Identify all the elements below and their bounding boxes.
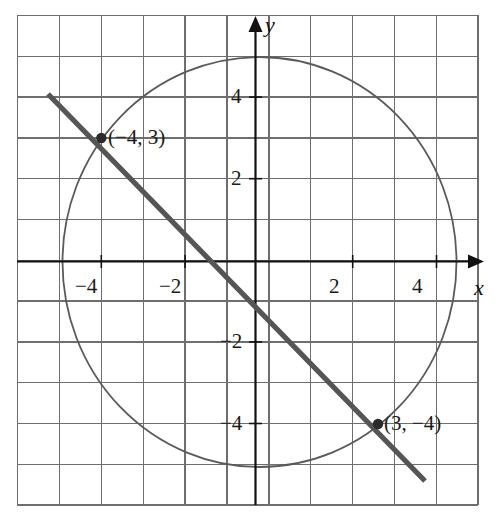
y-axis-name: y	[265, 14, 275, 36]
y-tick-label-minus4: −4	[220, 413, 242, 434]
point-marker-b	[373, 419, 383, 429]
y-tick-label-minus2: −2	[220, 331, 242, 352]
x-tick-label-4: 4	[412, 276, 423, 297]
x-tick-label-minus2: −2	[159, 276, 181, 297]
x-axis-name: x	[474, 277, 484, 299]
y-tick-label-4: 4	[231, 86, 242, 107]
point-label-a: (−4, 3)	[108, 127, 165, 148]
coordinate-plane-svg	[0, 0, 500, 523]
x-tick-label-2: 2	[329, 276, 340, 297]
point-marker-a	[96, 133, 106, 143]
x-axis	[17, 255, 484, 269]
x-tick-label-minus4: −4	[75, 276, 97, 297]
point-label-b: (3, −4)	[384, 413, 441, 434]
y-tick-label-2: 2	[231, 168, 242, 189]
graph-figure: −4 −2 2 4 4 2 −2 −4 y x (−4, 3) (3, −4)	[0, 0, 500, 523]
